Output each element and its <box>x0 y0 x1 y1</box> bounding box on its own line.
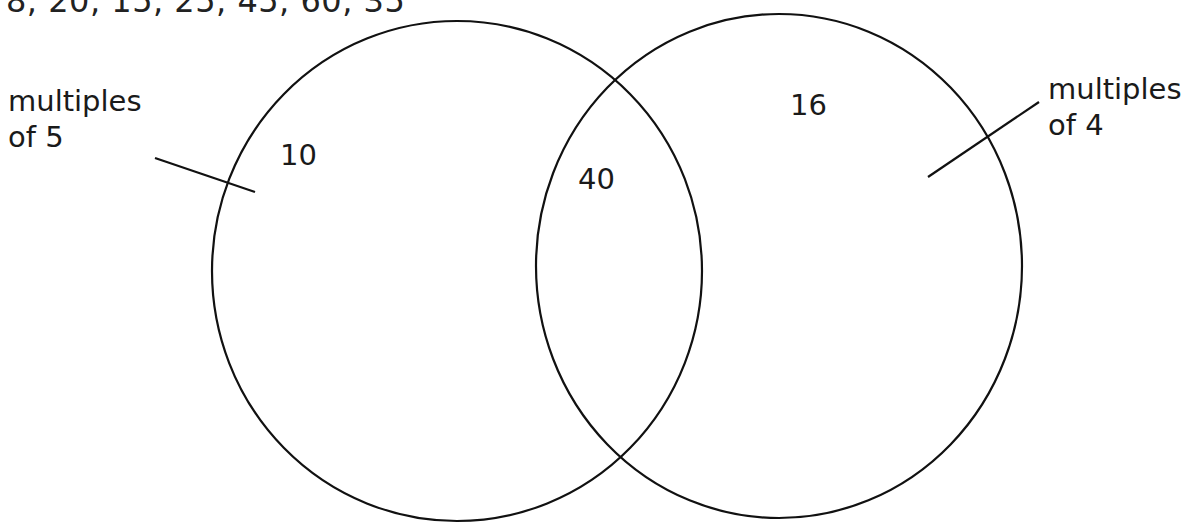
set-label-line: of 5 <box>8 119 142 155</box>
region-left-only-value: 10 <box>280 138 317 172</box>
set-label-multiples-of-5: multiples of 5 <box>8 83 142 155</box>
set-label-line: multiples <box>1048 71 1182 107</box>
set-label-line: multiples <box>8 83 142 119</box>
set-label-multiples-of-4: multiples of 4 <box>1048 71 1182 143</box>
set-label-line: of 4 <box>1048 107 1182 143</box>
region-intersection-value: 40 <box>578 162 615 196</box>
pointer-line-right <box>928 102 1039 177</box>
set-circle-multiples-of-5 <box>212 21 702 521</box>
pointer-line-left <box>155 158 255 192</box>
set-circle-multiples-of-4 <box>536 14 1022 518</box>
region-right-only-value: 16 <box>790 88 827 122</box>
venn-diagram <box>0 0 1198 527</box>
